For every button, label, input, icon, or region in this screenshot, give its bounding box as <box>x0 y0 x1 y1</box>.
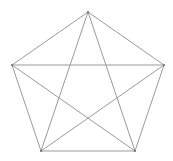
pentagram-diagram <box>0 0 173 161</box>
vertex-top <box>87 11 89 13</box>
edge-top-bottom-left <box>41 12 88 151</box>
edge-right-bottom-right <box>135 65 164 151</box>
edge-left-bottom-right <box>12 65 135 151</box>
edge-bottom-left-left <box>12 65 41 151</box>
vertex-left <box>11 64 13 66</box>
vertex-bottom-right <box>134 150 136 152</box>
vertex-bottom-left <box>40 150 42 152</box>
vertex-right <box>163 64 165 66</box>
edge-right-bottom-left <box>41 65 164 151</box>
edge-top-bottom-right <box>88 12 135 151</box>
edge-top-right <box>88 12 164 65</box>
edges-group <box>12 12 164 151</box>
edge-left-top <box>12 12 88 65</box>
